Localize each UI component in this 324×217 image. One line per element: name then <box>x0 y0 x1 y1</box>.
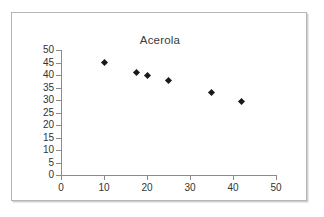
y-tick-mark <box>56 75 61 76</box>
y-tick-label: 30 <box>24 95 54 105</box>
y-tick-label: 5 <box>24 158 54 168</box>
y-tick-label: 35 <box>24 83 54 93</box>
data-point <box>143 71 150 78</box>
chart-figure: Acerola 05101520253035404550 01020304050 <box>0 0 324 217</box>
y-tick-label: 0 <box>24 170 54 180</box>
chart-frame: Acerola 05101520253035404550 01020304050 <box>11 12 307 201</box>
data-point <box>238 98 245 105</box>
x-tick-mark <box>190 175 191 180</box>
y-tick-label: 20 <box>24 120 54 130</box>
x-tick-label: 50 <box>261 183 291 193</box>
y-tick-label: 25 <box>24 108 54 118</box>
x-tick-label: 0 <box>46 183 76 193</box>
y-tick-mark <box>56 150 61 151</box>
x-tick-label: 10 <box>89 183 119 193</box>
x-tick-mark <box>276 175 277 180</box>
x-tick-mark <box>61 175 62 180</box>
y-tick-label: 10 <box>24 145 54 155</box>
y-tick-mark <box>56 100 61 101</box>
x-tick-mark <box>233 175 234 180</box>
x-tick-label: 40 <box>218 183 248 193</box>
x-tick-label: 20 <box>132 183 162 193</box>
y-tick-mark <box>56 163 61 164</box>
x-tick-mark <box>104 175 105 180</box>
y-axis-line <box>61 50 62 176</box>
y-tick-label: 40 <box>24 70 54 80</box>
y-tick-mark <box>56 113 61 114</box>
plot-area: 05101520253035404550 01020304050 <box>12 13 308 202</box>
x-tick-label: 30 <box>175 183 205 193</box>
y-tick-label: 15 <box>24 133 54 143</box>
y-tick-mark <box>56 125 61 126</box>
x-axis-line <box>61 175 276 176</box>
data-point <box>133 69 140 76</box>
y-tick-mark <box>56 88 61 89</box>
y-tick-mark <box>56 50 61 51</box>
y-tick-label: 45 <box>24 58 54 68</box>
data-point <box>165 76 172 83</box>
data-point <box>100 59 107 66</box>
y-tick-mark <box>56 63 61 64</box>
y-tick-mark <box>56 138 61 139</box>
y-tick-label: 50 <box>24 45 54 55</box>
data-point <box>208 89 215 96</box>
x-tick-mark <box>147 175 148 180</box>
